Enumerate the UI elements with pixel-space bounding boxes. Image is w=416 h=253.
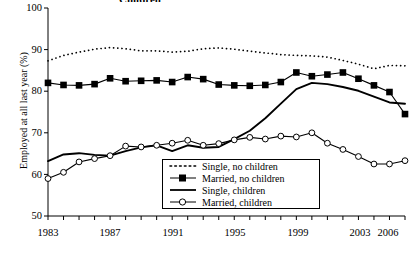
legend-label: Married, no children	[199, 173, 284, 184]
legend-item-single-children: Single, children	[163, 184, 319, 196]
legend-item-married-children: Married, children	[163, 196, 319, 208]
legend-label: Married, children	[199, 197, 272, 208]
legend-label: Single, no children	[199, 161, 278, 172]
chart-root: Children Employed at all last year (%) 1…	[0, 0, 416, 253]
plot-area	[0, 0, 416, 253]
legend: Single, no children Married, no children…	[162, 159, 320, 209]
solid-line-icon	[167, 184, 199, 196]
legend-item-single-no-children: Single, no children	[163, 160, 319, 172]
y-axis-ticks	[44, 8, 48, 216]
legend-label: Single, children	[199, 185, 265, 196]
x-axis-ticks	[48, 216, 405, 220]
filled-square-icon	[167, 172, 199, 184]
dotted-line-icon	[167, 160, 199, 172]
legend-item-married-no-children: Married, no children	[163, 172, 319, 184]
open-circle-icon	[167, 196, 199, 208]
